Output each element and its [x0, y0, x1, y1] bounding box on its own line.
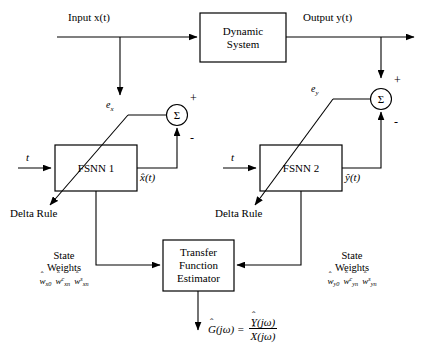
weight-y0: wy0: [327, 276, 339, 286]
estimator-line1: Transfer: [180, 246, 217, 259]
transfer-function-result: G(jω) = Y(jω) X(jω): [208, 316, 278, 342]
y-hat-label: ŷ(t): [345, 172, 360, 184]
summing-right-plus-sign: +: [394, 74, 401, 87]
input-signal-label: Input x(t): [68, 12, 110, 24]
transfer-function-estimator-block: Transfer Function Estimator: [163, 240, 234, 291]
result-fraction: Y(jω) X(jω): [249, 316, 278, 342]
weight-yn-c: wcyn: [343, 276, 358, 286]
dynamic-system-line1: Dynamic: [223, 25, 263, 38]
fsnn1-block: FSNN 1: [55, 145, 137, 191]
state-weights-left-symbols: wx0 wcxn wsxn: [8, 275, 120, 286]
state-weights-right-line1: State: [288, 250, 416, 262]
x-hat-label: x̂(t): [140, 172, 155, 184]
error-x-label: ex: [106, 100, 114, 114]
weight-x0: wx0: [39, 276, 51, 286]
weight-yn-s: wsyn: [362, 276, 376, 286]
summing-left-plus-sign: +: [190, 92, 197, 105]
state-weights-left: State Weights wx0 wcxn wsxn: [8, 250, 120, 287]
time-input-left-label: t: [26, 152, 29, 164]
estimator-line2: Function: [179, 259, 218, 272]
delta-rule-left-label: Delta Rule: [10, 208, 57, 220]
fsnn1-label: FSNN 1: [78, 162, 114, 175]
sigma-symbol-right: Σ: [378, 93, 384, 105]
weight-xn-c: wcxn: [55, 276, 70, 286]
summing-junction-left: Σ: [167, 105, 187, 125]
result-equals: =: [237, 323, 244, 335]
output-signal-label: Output y(t): [303, 12, 352, 24]
result-denominator: X(jω): [249, 329, 278, 342]
summing-junction-right: Σ: [371, 89, 391, 109]
state-weights-right-line2: Weights: [288, 262, 416, 274]
summing-right-minus-sign: -: [394, 116, 398, 129]
error-y-subscript: y: [315, 89, 318, 97]
error-y-label: ey: [311, 84, 319, 98]
delta-rule-right-label: Delta Rule: [215, 208, 262, 220]
state-weights-left-line2: Weights: [8, 262, 120, 274]
state-weights-right: State Weights wy0 wcyn wsyn: [288, 250, 416, 287]
dynamic-system-line2: System: [227, 38, 259, 51]
time-input-right-label: t: [231, 152, 234, 164]
state-weights-right-symbols: wy0 wcyn wsyn: [288, 275, 416, 286]
estimator-line3: Estimator: [177, 272, 220, 285]
sigma-symbol-left: Σ: [174, 109, 180, 121]
error-x-subscript: x: [110, 105, 113, 113]
figure-container: Input x(t) Output y(t) Dynamic System FS…: [0, 0, 424, 364]
summing-left-minus-sign: -: [190, 132, 194, 145]
state-weights-left-line1: State: [8, 250, 120, 262]
dynamic-system-block: Dynamic System: [200, 13, 286, 62]
result-lhs: G(jω): [208, 323, 234, 335]
weight-xn-s: wsxn: [74, 276, 88, 286]
fsnn2-block: FSNN 2: [260, 145, 342, 191]
fsnn2-label: FSNN 2: [283, 162, 319, 175]
